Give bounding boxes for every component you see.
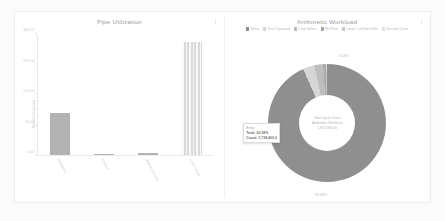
legend-item[interactable]: Load / Ld Row Fifth [342,27,378,31]
x-axis-tick-label: Arithmetic [56,158,67,174]
legend-label: Bit Row [325,27,337,31]
bar-series [38,34,214,155]
x-axis-tick-label: Load / Store [189,158,202,177]
legend-item[interactable]: Chip Select [294,27,317,31]
panel-title-pipe-utilization: Pipe Utilization [15,18,224,25]
bar[interactable] [138,153,158,155]
legend-swatch-icon [342,27,345,30]
panel-pipe-utilization: Pipe Utilization Minutes Elapsed 0.0075.… [15,12,224,202]
slice-percent-label: 3.14% [339,54,349,58]
legend-item[interactable]: Second Clear [382,27,408,31]
legend-swatch-icon [321,27,324,30]
y-axis-tick-label: 150.00 [23,89,35,93]
bar-slot [38,34,82,155]
legend-label: Load / Ld Row Fifth [346,27,377,31]
legend-item[interactable]: Entry [246,27,259,31]
legend-label: First Operand [268,27,290,31]
bar[interactable] [182,42,202,155]
legend-label: Entry [251,27,259,31]
bar-slot [126,34,170,155]
tooltip-value: Count: 1,738,462.0 [246,136,277,141]
x-axis-labels: ArithmeticControlMemory AccessLoad / Sto… [38,156,214,194]
panel-title-arithmetic-workload: Arithmetic Workload [224,18,430,25]
y-axis-tick-label: 300.00 [23,28,35,32]
dashboard-root: Pipe Utilization Minutes Elapsed 0.0075.… [0,0,445,221]
x-axis-label-slot: Load / Store [170,156,214,194]
bar-chart: Minutes Elapsed 0.0075.00150.00225.00300… [37,34,214,194]
legend-swatch-icon [294,27,297,30]
x-axis-label-slot: Control [82,156,126,194]
bar-slot [170,34,214,155]
panel-arithmetic-workload: Arithmetic Workload EntryFirst OperandCh… [224,12,430,202]
y-axis-tick-mark [35,124,37,125]
donut-center-text: Total Cycle CountArithmetic Workload1,87… [301,116,353,130]
y-axis-tick-mark [35,33,37,34]
bar[interactable] [50,113,70,155]
dashboard-card: Pipe Utilization Minutes Elapsed 0.0075.… [14,11,431,203]
x-axis-label-slot: Memory Access [126,156,170,194]
y-axis-tick-label: 225.00 [23,59,35,63]
slice-percent-label: 93.38% [315,193,327,197]
donut-tooltip: Entry Total: 93.38% Count: 1,738,462.0 [243,123,281,143]
legend-item[interactable]: Bit Row [321,27,338,31]
donut-legend: EntryFirst OperandChip SelectBit RowLoad… [228,27,426,31]
legend-label: Second Clear [386,27,408,31]
y-axis-tick-label: 75.00 [25,120,35,124]
kebab-menu-icon-left[interactable] [212,18,219,25]
bar[interactable] [94,154,114,155]
donut-chart: Total Cycle CountArithmetic Workload1,87… [224,48,430,198]
legend-item[interactable]: First Operand [263,27,290,31]
kebab-menu-icon-right[interactable] [418,18,425,25]
y-axis-tick-mark [35,94,37,95]
legend-swatch-icon [246,27,249,30]
x-axis-tick-label: Memory Access [145,158,160,182]
legend-swatch-icon [382,27,385,30]
y-axis-tick-mark [35,155,37,156]
y-axis-tick-label: 0.00 [27,150,34,154]
center-text-line: 1,872,094.00 [301,125,353,130]
x-axis-label-slot: Arithmetic [38,156,82,194]
y-axis-tick-mark [35,63,37,64]
legend-label: Chip Select [298,27,316,31]
x-axis-tick-label: Control [101,158,110,170]
bar-slot [82,34,126,155]
bar-chart-plot: 0.0075.00150.00225.00300.00 [37,34,214,156]
legend-swatch-icon [263,27,266,30]
